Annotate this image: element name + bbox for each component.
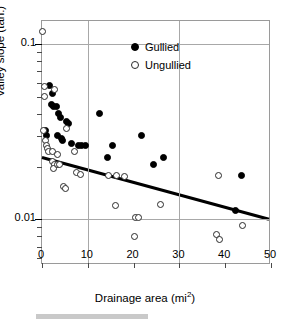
x-axis-tick	[134, 263, 135, 268]
y-axis-tick-label: 0.1	[0, 37, 36, 48]
legend-item-ungullied: Ungullied	[131, 56, 191, 74]
caption-rule	[36, 314, 148, 319]
data-point-ungullied	[157, 201, 164, 208]
x-axis-tick	[225, 263, 226, 268]
filled-circle-icon	[131, 43, 139, 51]
y-axis-tick-minor	[37, 52, 42, 53]
legend-item-gullied: Gullied	[131, 38, 191, 56]
data-point-gullied	[232, 207, 239, 214]
data-point-ungullied	[131, 233, 138, 240]
open-circle-icon	[131, 61, 139, 69]
x-axis-title-text: Drainage area (mi	[95, 292, 187, 304]
data-point-ungullied	[216, 236, 223, 243]
figure-container: Valley slope (tan.) Drainage area (mi2) …	[0, 0, 290, 324]
legend: Gullied Ungullied	[131, 38, 191, 74]
y-axis-tick-minor	[37, 114, 42, 115]
y-axis-tick-minor	[37, 236, 42, 237]
data-point-ungullied	[113, 172, 120, 179]
x-axis-tick	[179, 263, 180, 268]
x-axis-tick-label: 10	[81, 249, 93, 260]
y-axis-title: Valley slope (tan.)	[0, 6, 6, 97]
y-axis-tick-minor	[37, 136, 42, 137]
data-point-ungullied	[54, 151, 61, 158]
data-point-gullied	[68, 140, 75, 147]
y-axis-tick-major	[35, 44, 42, 45]
x-axis-tick	[42, 263, 43, 268]
x-axis-title-close: )	[191, 292, 195, 304]
data-point-gullied	[109, 142, 116, 149]
data-point-ungullied	[112, 202, 119, 209]
y-axis-tick-minor	[37, 167, 42, 168]
y-axis-tick-minor	[37, 61, 42, 62]
y-axis-tick-minor	[37, 227, 42, 228]
x-axis-tick-label: 0	[38, 249, 44, 260]
x-axis-tick-label: 50	[264, 249, 276, 260]
x-axis-tick	[88, 263, 89, 268]
legend-label-gullied: Gullied	[145, 38, 179, 56]
x-axis-tick-label: 30	[172, 249, 184, 260]
x-axis-title: Drainage area (mi2)	[0, 290, 290, 304]
data-point-gullied	[104, 154, 111, 161]
y-axis-tick-minor	[37, 71, 42, 72]
data-point-ungullied	[41, 83, 48, 90]
y-axis-tick-label: 0.01	[0, 212, 36, 223]
legend-label-ungullied: Ungullied	[145, 56, 191, 74]
x-axis-tick	[271, 263, 272, 268]
gridline-horizontal	[42, 219, 269, 220]
x-axis-tick-label: 20	[126, 249, 138, 260]
y-axis-tick-major	[35, 219, 42, 220]
x-axis-tick-label: 40	[218, 249, 230, 260]
